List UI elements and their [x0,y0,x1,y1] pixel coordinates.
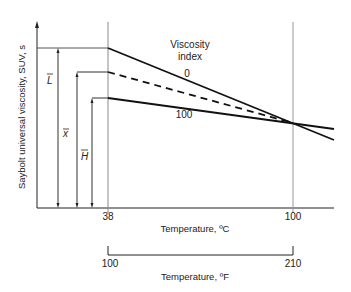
legend-title-line2: index [178,51,202,62]
y-axis-label: Saybolt universal viscosity, SUV, s [16,45,27,189]
series-label-vi-0: 0 [184,68,190,79]
label-l: L [47,75,53,86]
line-sample-dashed [108,72,293,123]
label-h: H [81,151,89,162]
viscosity-index-diagram: Saybolt universal viscosity, SUV, s L x … [0,0,351,292]
x-arrow-up-icon [76,72,79,77]
tick-f-100: 100 [102,258,119,269]
x-axis-label-f: Temperature, ºF [161,271,229,282]
h-arrow-down-icon [91,203,94,208]
h-arrow-up-icon [91,98,94,103]
legend-title-line1: Viscosity [170,39,209,50]
l-arrow-up-icon [57,48,60,53]
x-arrow-down-icon [76,203,79,208]
tick-c-38: 38 [102,211,114,222]
line-vi-0 [108,48,334,140]
series-label-vi-100: 100 [176,109,193,120]
l-arrow-down-icon [57,203,60,208]
y-axis-arrow-icon [35,21,39,28]
tick-f-210: 210 [285,258,302,269]
label-x: x [62,128,69,139]
x-axis-label-c: Temperature, ºC [161,223,230,234]
tick-c-100: 100 [285,211,302,222]
line-vi-100 [108,98,334,129]
